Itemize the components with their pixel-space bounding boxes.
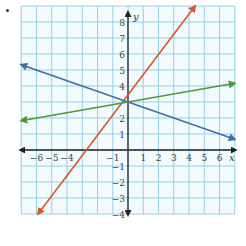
x-tick-label: −6 [30,153,44,163]
coordinate-plane: −6−5−4−11234568765421−1−2−3−4xy [0,0,246,246]
y-tick-label: 6 [119,50,125,60]
y-tick-label: 4 [119,82,125,92]
y-tick-label: 5 [119,66,125,76]
y-tick-label: −3 [112,194,126,204]
y-axis-label: y [132,11,139,22]
y-tick-label: 8 [119,18,125,28]
y-tick-label: 7 [119,34,125,44]
x-tick-label: 5 [201,153,207,163]
x-tick-label: 6 [217,153,223,163]
x-tick-label: 1 [140,153,146,163]
x-tick-label: 4 [186,153,192,163]
x-axis-label: x [229,152,235,163]
y-tick-label: −1 [112,162,125,172]
y-tick-label: 1 [119,130,125,140]
y-tick-label: −2 [112,178,125,188]
y-tick-label: 2 [119,114,125,124]
x-tick-label: 2 [156,153,162,163]
x-tick-label: −5 [45,153,59,163]
x-tick-label: −4 [60,153,74,163]
x-tick-label: 3 [171,153,177,163]
y-tick-label: −4 [112,210,126,220]
